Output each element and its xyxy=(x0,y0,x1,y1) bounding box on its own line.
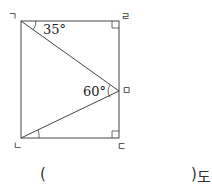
rectangle-outline xyxy=(21,21,119,138)
vertex-label-mid-right: ㅁ xyxy=(122,85,131,96)
answer-unit: 도 xyxy=(197,165,211,186)
angle-arc-bottom-left xyxy=(38,130,39,138)
answer-open-paren: ( xyxy=(40,165,46,183)
right-angle-mark-top-right xyxy=(112,21,119,28)
segment-top-left-to-mid-right xyxy=(21,21,119,91)
vertex-label-bottom-right: ㄷ xyxy=(117,141,126,152)
vertex-label-top-left: ㄱ xyxy=(8,11,17,22)
right-angle-mark-bottom-right xyxy=(112,131,119,138)
vertex-label-bottom-left: ㄴ xyxy=(13,140,22,151)
answer-close-paren: ) xyxy=(191,165,197,183)
angle-arc-top-left xyxy=(33,21,36,30)
vertex-label-top-right: ㄹ xyxy=(121,11,130,22)
angle-label-60: 60° xyxy=(83,84,106,99)
answer-blank[interactable] xyxy=(50,165,190,183)
angle-label-35: 35° xyxy=(43,22,66,37)
